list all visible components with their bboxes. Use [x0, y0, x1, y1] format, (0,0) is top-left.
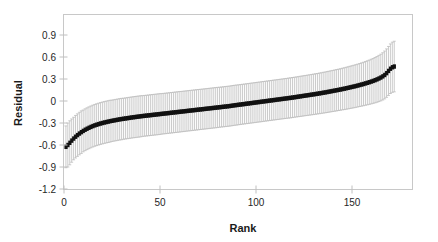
y-tick-label: 0 [50, 96, 56, 107]
y-tick-label: 0.9 [42, 30, 56, 41]
y-tick-label: 0.3 [42, 74, 56, 85]
residual-rank-chart: 0.90.60.30-0.3-0.6-0.9-1.2 050100150 Res… [0, 0, 438, 242]
y-tick-label: -0.9 [39, 162, 57, 173]
x-tick-label: 50 [154, 197, 166, 208]
y-tick-label: -0.6 [39, 140, 57, 151]
y-tick-label: 0.6 [42, 52, 56, 63]
y-tick-label: -1.2 [39, 184, 57, 195]
x-tick-label: 150 [344, 197, 361, 208]
x-axis-title: Rank [230, 222, 258, 234]
x-tick-label: 0 [61, 197, 67, 208]
data-point [393, 64, 396, 68]
y-tick-label: -0.3 [39, 118, 57, 129]
x-tick-label: 100 [248, 197, 265, 208]
y-axis-title: Residual [12, 80, 24, 126]
